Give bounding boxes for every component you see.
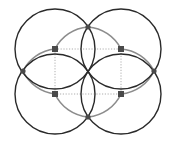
sq-top-right-node <box>118 46 124 52</box>
four-circle-diagram <box>0 0 175 141</box>
node-right-dot <box>151 68 156 73</box>
node-bottom-dot <box>85 114 90 119</box>
sq-bottom-left-node <box>52 91 58 97</box>
arc-right-upper <box>121 49 154 71</box>
sq-top-left-node <box>52 46 58 52</box>
node-top-dot <box>85 24 90 29</box>
sq-bottom-right-node <box>118 91 124 97</box>
node-left-dot <box>20 68 25 73</box>
arc-left-lower <box>23 71 55 94</box>
arc-right-lower <box>121 71 154 94</box>
arc-left-upper <box>23 49 55 71</box>
